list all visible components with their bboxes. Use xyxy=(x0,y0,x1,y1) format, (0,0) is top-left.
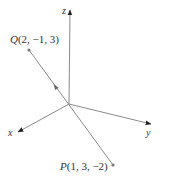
x-axis-label: x xyxy=(7,127,13,138)
x-axis xyxy=(18,104,69,132)
z-axis xyxy=(69,10,70,104)
point-q xyxy=(27,48,30,51)
point-p-coords: (1, 3, −2) xyxy=(67,160,108,173)
z-axis-label: z xyxy=(61,5,66,16)
point-q-label: Q(2, −1, 3) xyxy=(10,33,59,46)
segment-pq xyxy=(29,50,113,165)
y-axis-label: y xyxy=(145,127,151,138)
point-q-coords: (2, −1, 3) xyxy=(18,33,59,46)
point-q-letter: Q xyxy=(10,33,18,45)
coordinate-diagram: z x y Q(2, −1, 3) P(1, 3, −2) xyxy=(0,0,169,179)
point-p-label: P(1, 3, −2) xyxy=(59,160,108,173)
point-p xyxy=(111,163,114,166)
